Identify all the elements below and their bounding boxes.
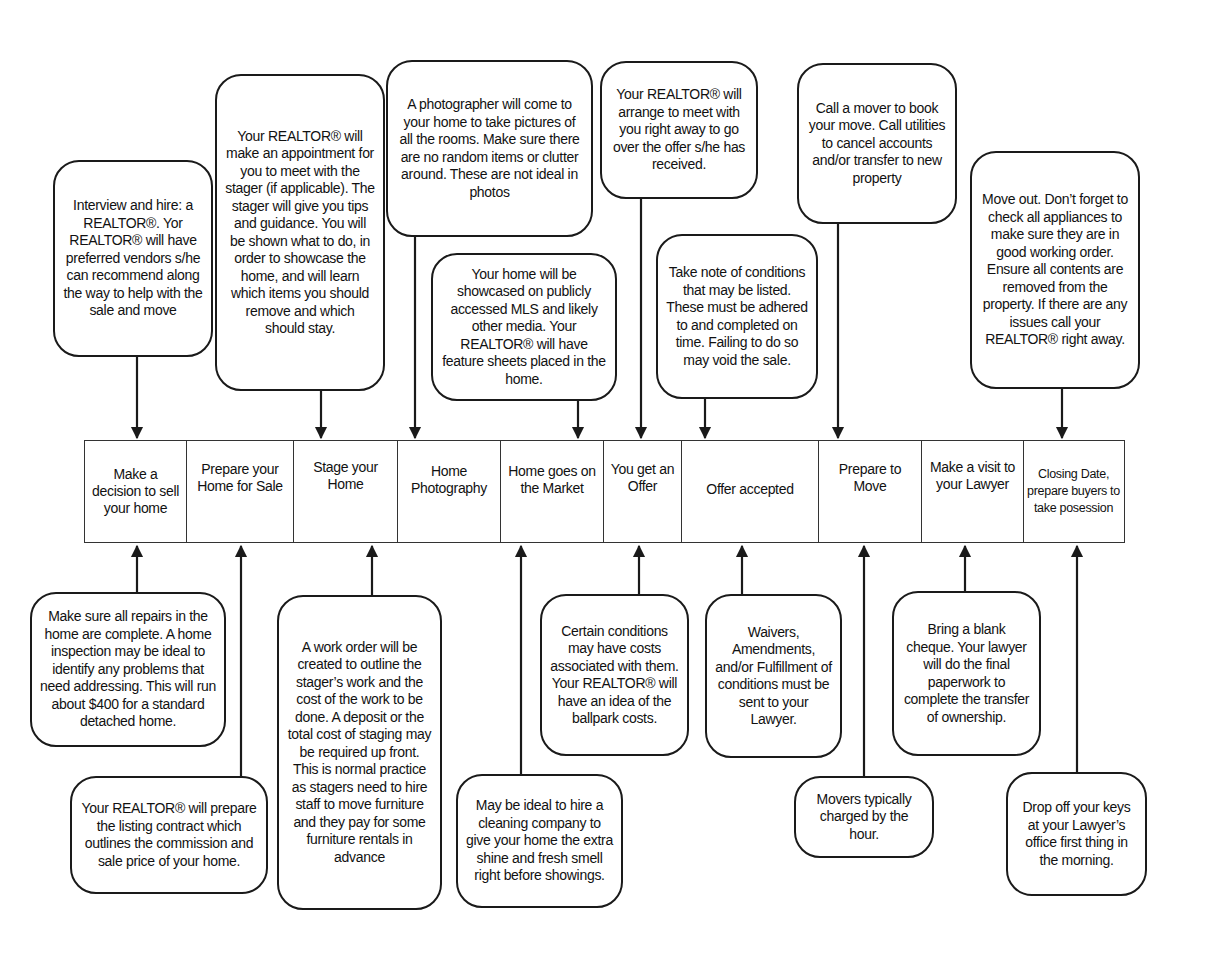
callout-text: Drop off your keys at your Lawyer’s offi…: [1016, 799, 1137, 869]
step-label: You get an Offer: [607, 461, 678, 495]
callout-cleaning: May be ideal to hire a cleaning company …: [456, 774, 623, 908]
callout-drop-keys: Drop off your keys at your Lawyer’s offi…: [1006, 772, 1147, 896]
step-label: Offer accepted: [706, 481, 793, 498]
callout-waivers: Waivers, Amendments, and/or Fulfillment …: [705, 594, 842, 758]
step-move: Prepare to Move: [819, 441, 922, 542]
callout-text: Bring a blank cheque. Your lawyer will d…: [902, 621, 1031, 726]
callout-hire-realtor: Interview and hire: a REALTOR®. Yor REAL…: [53, 160, 213, 357]
step-label: Make a decision to sell your home: [88, 466, 183, 517]
callout-text: Certain conditions may have costs associ…: [550, 623, 679, 728]
callout-stager-appointment: Your REALTOR® will make an appointment f…: [215, 74, 385, 391]
callout-conditions-note: Take note of conditions that may be list…: [656, 234, 818, 399]
callout-text: A work order will be created to outline …: [287, 639, 432, 867]
step-prepare: Prepare your Home for Sale: [187, 441, 294, 542]
step-label: Prepare to Move: [822, 461, 918, 495]
step-label: Home goes on the Market: [504, 463, 600, 497]
callout-text: A photographer will come to your home to…: [396, 96, 583, 201]
step-offer: You get an Offer: [604, 441, 682, 542]
callout-text: Your REALTOR® will prepare the listing c…: [80, 800, 258, 870]
callout-blank-cheque: Bring a blank cheque. Your lawyer will d…: [892, 591, 1041, 756]
step-lawyer: Make a visit to your Lawyer: [922, 441, 1024, 542]
callout-text: Interview and hire: a REALTOR®. Yor REAL…: [63, 197, 203, 320]
callout-movers-hourly: Movers typically charged by the hour.: [794, 776, 934, 858]
callout-text: Call a mover to book your move. Call uti…: [807, 100, 947, 188]
callout-text: Your REALTOR® will make an appointment f…: [225, 128, 375, 338]
callout-text: Take note of conditions that may be list…: [666, 264, 808, 369]
step-closing: Closing Date, prepare buyers to take pos…: [1024, 441, 1123, 542]
step-label: Closing Date, prepare buyers to take pos…: [1027, 466, 1120, 517]
callout-text: Make sure all repairs in the home are co…: [40, 608, 216, 731]
callout-work-order: A work order will be created to outline …: [277, 595, 442, 910]
callout-text: Waivers, Amendments, and/or Fulfillment …: [715, 624, 832, 729]
process-timeline: Make a decision to sell your home Prepar…: [84, 440, 1125, 543]
callout-photographer: A photographer will come to your home to…: [386, 60, 593, 237]
step-decide: Make a decision to sell your home: [85, 441, 187, 542]
step-label: Prepare your Home for Sale: [190, 461, 290, 495]
step-accepted: Offer accepted: [682, 441, 819, 542]
step-photography: Home Photography: [398, 441, 501, 542]
callout-text: Move out. Don’t forget to check all appl…: [980, 191, 1130, 349]
step-market: Home goes on the Market: [501, 441, 604, 542]
callout-text: Your REALTOR® will arrange to meet with …: [610, 86, 748, 174]
callout-book-mover: Call a mover to book your move. Call uti…: [797, 63, 957, 224]
step-label: Stage your Home: [297, 459, 394, 493]
callout-text: Your home will be showcased on publicly …: [441, 266, 607, 389]
callout-text: Movers typically charged by the hour.: [804, 791, 924, 844]
step-label: Make a visit to your Lawyer: [925, 459, 1020, 493]
callout-mls-showcase: Your home will be showcased on publicly …: [431, 253, 617, 401]
callout-repairs: Make sure all repairs in the home are co…: [30, 592, 226, 747]
callout-listing-contract: Your REALTOR® will prepare the listing c…: [70, 776, 268, 894]
callout-text: May be ideal to hire a cleaning company …: [466, 797, 613, 885]
callout-review-offer: Your REALTOR® will arrange to meet with …: [600, 61, 758, 199]
callout-move-out: Move out. Don’t forget to check all appl…: [970, 151, 1140, 389]
step-stage: Stage your Home: [294, 441, 398, 542]
step-label: Home Photography: [401, 463, 497, 497]
callout-condition-costs: Certain conditions may have costs associ…: [540, 594, 689, 756]
